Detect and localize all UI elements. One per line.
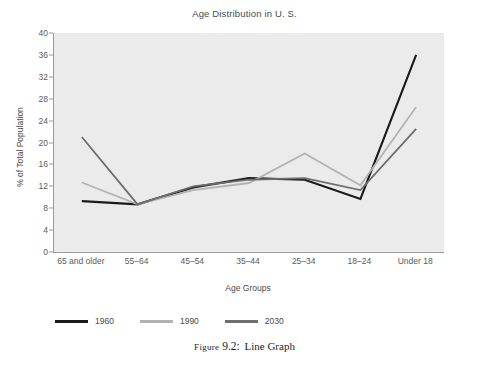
legend-item-2030[interactable]: 2030 [225, 317, 284, 326]
caption-figure-text: Line Graph [244, 340, 294, 352]
x-axis-tick-labels: 65 and older55–6445–5435–4425–3418–24Und… [53, 256, 443, 272]
y-axis-tick-labels: 0481216202428323640 [0, 33, 48, 252]
x-tick-label: 45–54 [180, 256, 204, 266]
y-tick-label: 20 [0, 138, 48, 147]
chart-legend: 196019902030 [55, 317, 284, 326]
x-tick-label: Under 18 [398, 256, 433, 266]
y-tick-label: 36 [0, 51, 48, 60]
caption-figure-number: 9.2: [222, 340, 240, 352]
x-tick-label: 35–44 [236, 256, 260, 266]
line-series-1960 [82, 55, 416, 204]
x-tick-label: 65 and older [57, 256, 104, 266]
legend-line-swatch [55, 320, 88, 323]
line-series-svg [54, 33, 444, 252]
chart-title: Age Distribution in U. S. [0, 8, 489, 19]
legend-line-swatch [225, 320, 258, 323]
legend-item-1960[interactable]: 1960 [55, 317, 114, 326]
y-tick-label: 16 [0, 160, 48, 169]
legend-line-swatch [140, 320, 173, 323]
x-axis-title: Age Groups [53, 283, 443, 293]
y-tick-label: 28 [0, 94, 48, 103]
legend-label: 1990 [180, 317, 199, 326]
x-tick-label: 25–34 [292, 256, 316, 266]
figure-caption: Figure 9.2: Line Graph [0, 340, 489, 352]
y-tick-label: 12 [0, 182, 48, 191]
y-tick-label: 32 [0, 73, 48, 82]
caption-figure-word: Figure [194, 342, 219, 352]
y-tick-label: 24 [0, 116, 48, 125]
y-tick-label: 8 [0, 204, 48, 213]
x-tick-label: 55–64 [125, 256, 149, 266]
y-tick-label: 0 [0, 248, 48, 257]
figure-container: Age Distribution in U. S. % of Total Pop… [0, 0, 489, 366]
line-series-1990 [82, 107, 416, 204]
legend-label: 1960 [95, 317, 114, 326]
y-tick-label: 40 [0, 29, 48, 38]
line-series-2030 [82, 129, 416, 205]
legend-item-1990[interactable]: 1990 [140, 317, 199, 326]
plot-area [53, 33, 444, 253]
x-tick-label: 18–24 [348, 256, 372, 266]
legend-label: 2030 [265, 317, 284, 326]
y-tick-label: 4 [0, 226, 48, 235]
